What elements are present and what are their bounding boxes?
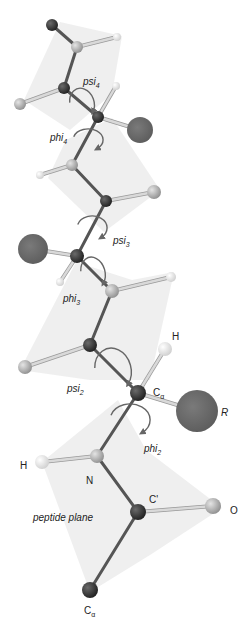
- atom-h-n2: [166, 272, 176, 282]
- atom-c-4: [58, 82, 70, 94]
- atom-ca-1: [82, 582, 98, 598]
- atom-ca-4: [92, 111, 104, 123]
- atom-o-2: [18, 360, 32, 374]
- atom-o-4: [14, 98, 26, 110]
- atom-n-1: [90, 449, 104, 463]
- atom-h-n1: [35, 455, 49, 469]
- atom-o-1: [205, 498, 221, 514]
- atom-h-ca2: [158, 342, 172, 356]
- atom-n-2: [105, 284, 119, 298]
- label-phi4: phi4: [49, 132, 67, 145]
- label-psi2: psi2: [66, 383, 84, 396]
- atom-o-3: [147, 185, 161, 199]
- label-peptide-plane: peptide plane: [32, 512, 93, 523]
- label-oxygen: O: [230, 505, 238, 516]
- atom-h-n3: [36, 171, 44, 179]
- label-h-nitrogen: H: [20, 460, 27, 471]
- label-r-group: R: [221, 407, 228, 418]
- atom-c-1: [130, 504, 146, 520]
- atom-n-3: [66, 159, 78, 171]
- label-nitrogen: N: [86, 475, 93, 486]
- atom-c-2: [83, 338, 97, 352]
- atom-r-4: [127, 117, 153, 143]
- atom-r-3: [18, 234, 48, 264]
- atom-c-3: [100, 195, 112, 207]
- atom-n-4: [71, 41, 83, 53]
- atom-r-2: [176, 390, 218, 432]
- label-carbonyl-carbon: C': [149, 494, 158, 505]
- atom-h-ca4: [112, 82, 120, 90]
- atom-h-ca3: [56, 278, 64, 286]
- label-psi3: psi3: [112, 235, 130, 248]
- label-h-calpha: H: [172, 331, 179, 342]
- atom-ca-3: [70, 249, 84, 263]
- atom-ca-2: [130, 385, 146, 401]
- peptide-backbone-diagram: psi4 phi4 psi3 phi3 psi2 phi2 H Cα R H N…: [0, 0, 252, 623]
- atom-h-n4: [113, 33, 121, 41]
- atom-ca-top: [46, 19, 58, 31]
- label-calpha-1: Cα: [84, 605, 95, 618]
